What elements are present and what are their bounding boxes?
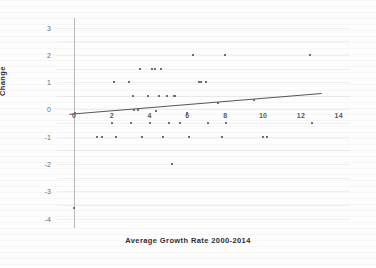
y-axis-label: Change [0,66,7,96]
data-point [133,109,135,111]
data-point [154,68,156,70]
data-point [115,136,117,138]
y-tick-label: -1 [44,133,51,140]
data-point [207,122,209,124]
data-point [221,136,223,138]
scatter-chart: 3210-1-2-3-4 02468101214 Change Average … [0,0,376,268]
data-point [192,54,194,56]
y-tick-label: -3 [44,188,51,195]
data-point [128,81,130,83]
data-point [149,122,151,124]
data-point [73,207,75,209]
y-tick-label: -2 [44,160,51,167]
data-point [139,68,141,70]
data-point [174,95,176,97]
data-point [96,136,98,138]
data-point [101,136,103,138]
data-point [168,122,170,124]
y-tick-label: 2 [47,51,51,58]
x-axis-label: Average Growth Rate 2000-2014 [0,236,376,245]
data-point [224,54,226,56]
data-point [158,95,160,97]
data-point [132,95,134,97]
data-point [225,122,227,124]
data-point [141,136,143,138]
data-point [186,112,188,114]
data-point [311,122,313,124]
data-point [205,81,207,83]
data-point [200,81,202,83]
data-point [171,163,173,165]
data-point [74,112,76,114]
y-tick-label: 0 [47,106,51,113]
data-point [166,95,168,97]
data-point [309,54,311,56]
data-point [160,68,162,70]
data-point [151,68,153,70]
data-point [155,110,157,112]
trend-line [57,18,350,228]
data-point [147,95,149,97]
plot-area: 3210-1-2-3-4 02468101214 [57,18,350,228]
data-point [266,136,268,138]
data-point [262,136,264,138]
y-tick-label: 3 [47,24,51,31]
data-point [253,99,255,101]
data-point [162,136,164,138]
data-point [130,122,132,124]
data-point [137,109,139,111]
data-point [111,122,113,124]
data-point [217,102,219,104]
y-tick-label: -4 [44,215,51,222]
data-point [113,81,115,83]
data-point [188,136,190,138]
y-tick-label: 1 [47,79,51,86]
data-point [179,122,181,124]
